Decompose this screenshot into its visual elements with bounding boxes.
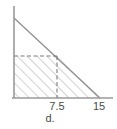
geometry-figure: 7.5 15 d. bbox=[0, 0, 117, 129]
figure-caption: d. bbox=[30, 112, 70, 124]
x-tick-label-15: 15 bbox=[84, 100, 114, 112]
x-tick-label-7-5: 7.5 bbox=[36, 100, 78, 112]
